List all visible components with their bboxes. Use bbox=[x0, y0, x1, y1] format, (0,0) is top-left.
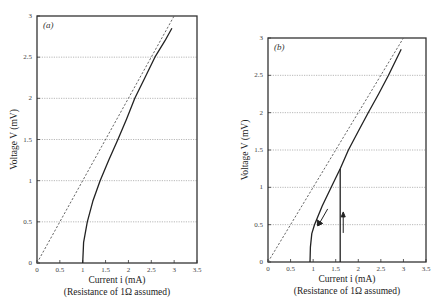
y-tick-label: 0 bbox=[260, 258, 264, 266]
y-tick-label: 0.5 bbox=[23, 218, 32, 226]
ohmic-reference-line bbox=[37, 16, 174, 263]
y-tick-label: 2 bbox=[260, 109, 264, 117]
x-tick-label: 2 bbox=[357, 265, 361, 273]
x-axis-title: Current i (mA) bbox=[319, 274, 376, 285]
arrow-down-left-head bbox=[317, 220, 323, 226]
arrow-down-left-shaft bbox=[320, 209, 328, 223]
y-axis-title: Voltage V (mV) bbox=[240, 120, 251, 181]
x-tick-label: 0.5 bbox=[286, 265, 295, 273]
x-tick-label: 0 bbox=[35, 266, 39, 274]
x-tick-label: 0.5 bbox=[55, 266, 64, 274]
x-tick-label: 0 bbox=[266, 265, 270, 273]
x-axis-note: (Resistance of 1Ω assumed) bbox=[294, 286, 401, 297]
x-axis-title: Current i (mA) bbox=[89, 275, 146, 286]
panel-b: 00.511.522.533.500.511.522.53Current i (… bbox=[240, 34, 431, 297]
x-tick-label: 1 bbox=[81, 266, 85, 274]
y-tick-label: 2 bbox=[29, 94, 33, 102]
x-tick-label: 2.5 bbox=[147, 266, 156, 274]
x-tick-label: 3 bbox=[172, 266, 176, 274]
x-axis-note: (Resistance of 1Ω assumed) bbox=[64, 287, 171, 298]
x-tick-label: 3.5 bbox=[193, 266, 202, 274]
y-tick-label: 1 bbox=[260, 183, 264, 191]
x-tick-label: 3 bbox=[402, 265, 406, 273]
y-tick-label: 3 bbox=[260, 34, 264, 42]
measured-curve bbox=[310, 49, 401, 262]
y-tick-label: 3 bbox=[29, 12, 33, 20]
measured-curve bbox=[83, 28, 172, 263]
arrow-up-head bbox=[341, 212, 345, 217]
x-tick-label: 2.5 bbox=[376, 265, 385, 273]
y-tick-label: 2.5 bbox=[254, 71, 263, 79]
x-tick-label: 1.5 bbox=[331, 265, 340, 273]
x-tick-label: 2 bbox=[127, 266, 131, 274]
y-tick-label: 0.5 bbox=[254, 221, 263, 229]
y-tick-label: 2.5 bbox=[23, 53, 32, 61]
x-tick-label: 1.5 bbox=[101, 266, 110, 274]
plot-frame bbox=[268, 38, 426, 262]
x-tick-label: 1 bbox=[311, 265, 315, 273]
chart-canvas: 00.511.522.533.500.511.522.53Current i (… bbox=[0, 0, 440, 304]
x-tick-label: 3.5 bbox=[422, 265, 431, 273]
y-axis-title: Voltage V (mV) bbox=[9, 109, 20, 170]
panel-a: 00.511.522.533.500.511.522.53Current i (… bbox=[9, 12, 202, 298]
panel-label: (b) bbox=[274, 42, 285, 52]
y-tick-label: 0 bbox=[29, 259, 33, 267]
y-tick-label: 1.5 bbox=[23, 136, 32, 144]
panel-label: (a) bbox=[43, 20, 54, 30]
y-tick-label: 1 bbox=[29, 177, 33, 185]
y-tick-label: 1.5 bbox=[254, 146, 263, 154]
